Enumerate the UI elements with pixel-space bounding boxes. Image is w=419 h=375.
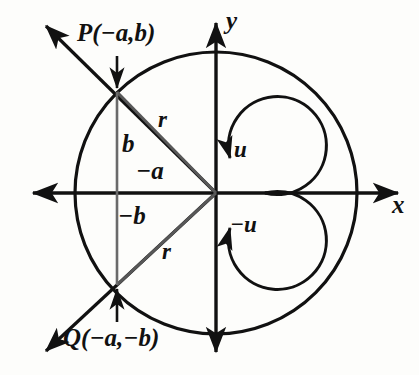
segment-label-b: b bbox=[122, 131, 135, 156]
angle-arc-negative-u bbox=[228, 191, 326, 289]
point-label-Q: Q(−a,−b) bbox=[63, 325, 159, 350]
figure-canvas bbox=[0, 0, 419, 375]
segment-label-negative-b: −b bbox=[118, 203, 146, 228]
angle-label-u: u bbox=[234, 138, 247, 161]
trig-circle-figure: P(−a,b) Q(−a,−b) y x b −a −b r r u −u bbox=[0, 0, 419, 375]
x-axis-label: x bbox=[392, 192, 405, 217]
angle-label-negative-u: −u bbox=[230, 213, 257, 236]
point-label-P: P(−a,b) bbox=[77, 20, 155, 45]
y-axis-label: y bbox=[226, 8, 237, 33]
radius-label-upper: r bbox=[158, 108, 167, 131]
radius-label-lower: r bbox=[162, 240, 171, 263]
segment-label-negative-a: −a bbox=[136, 158, 164, 183]
